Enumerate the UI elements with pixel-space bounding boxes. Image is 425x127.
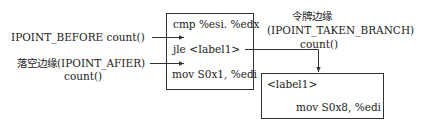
ipoint-after-count: count() (64, 70, 102, 82)
target-instruction-block: <label1> mov S0x8, %edi (261, 73, 384, 119)
taken-branch-count: count() (300, 38, 338, 50)
instruction-jle: jle <Iabel1> (173, 43, 240, 55)
instruction-cmp: cmp %esi. %edx (173, 18, 259, 30)
ipoint-before-label: IPOINT_BEFORE count() (11, 31, 145, 43)
instruction-mov: mov S0x1, %edi (172, 68, 257, 80)
target-instruction-mov: mov S0x8, %edi (296, 101, 381, 113)
main-instruction-block: cmp %esi. %edx jle <Iabel1> mov S0x1, %e… (166, 13, 254, 90)
taken-branch-title: 令牌边缘 (292, 10, 332, 22)
target-label: <label1> (267, 78, 317, 90)
ipoint-after-label: 落空边缘(IPOINT_AFIER) (17, 57, 145, 69)
taken-branch-ipoint: (IPOINT_TAKEN_BRANCH) (267, 24, 414, 36)
